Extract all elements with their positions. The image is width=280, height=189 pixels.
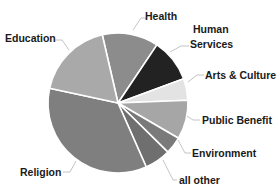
pie-chart: Health Human Services Arts & Culture Pub… [0, 0, 280, 189]
label-environment: Environment [192, 147, 257, 159]
label-human-services-line2: Services [190, 38, 233, 50]
label-arts-culture: Arts & Culture [205, 69, 276, 81]
leader-line-religion [63, 161, 76, 172]
label-public-benefit: Public Benefit [202, 114, 273, 126]
leader-line-public-benefit [187, 116, 200, 120]
leader-line-environment [178, 140, 191, 153]
leader-line-arts-culture [188, 75, 204, 82]
label-human-services-line1: Human [193, 23, 229, 35]
leader-line-human-services [170, 46, 189, 52]
label-health: Health [145, 10, 177, 22]
leader-line-education [55, 40, 69, 50]
label-education: Education [5, 32, 56, 44]
label-religion: Religion [20, 166, 61, 178]
leader-line-all-other [163, 160, 177, 180]
pie-slices [48, 33, 188, 173]
label-all-other: all other [179, 174, 220, 186]
